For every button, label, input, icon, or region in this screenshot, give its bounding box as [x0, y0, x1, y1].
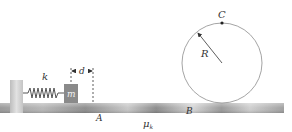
point-c-dot [220, 21, 223, 24]
track [0, 103, 284, 113]
wall [10, 80, 23, 113]
diagram-canvas: m k d A B μk R C [0, 0, 292, 132]
mu-subscript: k [150, 123, 154, 130]
point-c-label: C [218, 9, 226, 20]
point-a-label: A [95, 113, 103, 123]
radius-label: R [200, 48, 209, 59]
mass-label: m [67, 89, 76, 99]
spring-constant-label: k [42, 71, 48, 82]
displacement-label: d [79, 66, 85, 76]
point-b-label: B [185, 106, 193, 116]
spring [23, 88, 64, 98]
friction-coefficient-label: μk [143, 118, 154, 130]
